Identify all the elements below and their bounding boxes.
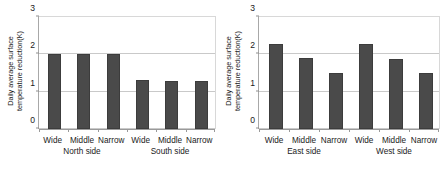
y-axis-title-right: Daily average surface temperature reduct… [221, 12, 247, 130]
group-label-north-side: North side [63, 147, 100, 157]
y-tick-label-0: 0 [30, 116, 35, 125]
x-label-north-middle: Middle [70, 136, 94, 146]
x-label-south-middle: Middle [158, 136, 182, 146]
group-label-east-side: East side [287, 147, 321, 157]
bar-south-middle[interactable] [165, 81, 178, 130]
x-label-south-wide: Wide [131, 136, 150, 146]
x-label-west-narrow: Narrow [411, 136, 437, 146]
y-tick-label-2: 2 [30, 41, 35, 50]
y-axis-title-line2: temperature reduction(K) [234, 31, 243, 111]
x-tick-mark-2 [98, 129, 99, 132]
x-tick-mark-0 [39, 129, 40, 132]
x-tick-mark-1 [68, 129, 69, 132]
y-tick-label-3: 3 [250, 4, 255, 13]
x-tick-mark-1 [289, 129, 290, 132]
group-label-west-side: West side [376, 147, 412, 157]
bar-east-narrow[interactable] [329, 73, 343, 129]
x-tick-mark-4 [156, 129, 157, 132]
y-tick-label-3: 3 [30, 4, 35, 13]
group-label-south-side: South side [151, 147, 190, 157]
x-tick-mark-6 [214, 129, 215, 132]
bar-series-left [39, 17, 215, 129]
y-tick-label-1: 1 [30, 78, 35, 87]
bar-west-wide[interactable] [359, 44, 373, 129]
x-tick-mark-3 [349, 129, 350, 132]
plot-area-left: 0 1 2 3 [38, 16, 216, 129]
y-axis-title-left: Daily average surface temperature reduct… [3, 12, 29, 130]
bar-west-middle[interactable] [389, 59, 403, 129]
x-tick-mark-4 [379, 129, 380, 132]
x-tick-mark-5 [409, 129, 410, 132]
y-tick-label-0: 0 [250, 116, 255, 125]
x-label-east-middle: Middle [292, 136, 316, 146]
x-tick-mark-0 [259, 129, 260, 132]
x-label-north-narrow: Narrow [98, 136, 124, 146]
chart-panel-east-west: Daily average surface temperature reduct… [218, 0, 436, 177]
bar-east-middle[interactable] [299, 58, 313, 129]
x-tick-mark-6 [438, 129, 439, 132]
x-tick-mark-5 [186, 129, 187, 132]
x-label-south-narrow: Narrow [186, 136, 212, 146]
bar-north-middle[interactable] [77, 54, 90, 129]
plot-area-right: 0 1 2 3 [258, 16, 440, 129]
x-axis-group-labels-left: North side South side [38, 147, 214, 159]
x-label-east-narrow: Narrow [321, 136, 347, 146]
bar-east-wide[interactable] [269, 44, 283, 130]
x-tick-mark-2 [319, 129, 320, 132]
x-tick-mark-3 [127, 129, 128, 132]
y-tick-label-1: 1 [250, 78, 255, 87]
x-axis-group-labels-right: East side West side [258, 147, 438, 159]
x-label-west-wide: Wide [355, 136, 374, 146]
y-axis-title-line2: temperature reduction(K) [16, 31, 25, 111]
x-label-west-middle: Middle [382, 136, 406, 146]
x-label-east-wide: Wide [265, 136, 284, 146]
bar-west-narrow[interactable] [419, 73, 433, 129]
bar-south-wide[interactable] [136, 80, 149, 129]
x-label-north-wide: Wide [43, 136, 62, 146]
y-tick-label-2: 2 [250, 41, 255, 50]
bar-north-wide[interactable] [48, 54, 61, 129]
bar-north-narrow[interactable] [107, 54, 120, 129]
bar-south-narrow[interactable] [195, 81, 208, 129]
bar-series-right [259, 17, 439, 129]
chart-panel-north-south: Daily average surface temperature reduct… [0, 0, 218, 177]
